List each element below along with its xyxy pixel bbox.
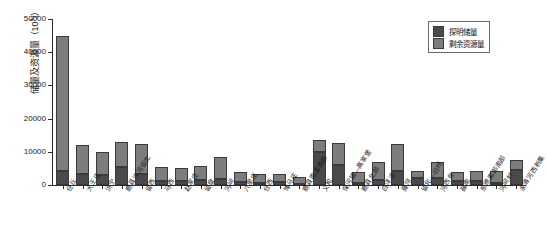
y-axis-tick-label: 20000 [24,114,46,123]
y-axis-tick-label: 10000 [24,147,46,156]
legend-label-remaining: 剩余资源量 [449,38,484,49]
y-axis-tick-mark [48,152,52,153]
y-axis-tick-label: 50000 [24,14,46,23]
bar-segment-remaining [214,157,227,179]
bar-segment-remaining [56,36,69,171]
bar-segment-remaining [115,142,128,168]
y-axis-tick-label: 40000 [24,47,46,56]
y-axis-tick-mark [48,85,52,86]
legend-swatch-proven-icon [433,26,444,37]
bar-segment-remaining [96,152,109,175]
bar-segment-remaining [76,145,89,174]
y-axis-tick-label: 0 [42,180,46,189]
bar-segment-remaining [411,171,424,178]
legend-label-proven: 探明储量 [449,26,477,37]
bar-segment-remaining [313,140,326,153]
legend-item-proven: 探明储量 [433,25,484,37]
bar-segment-remaining [510,160,523,169]
legend-swatch-remaining-icon [433,38,444,49]
x-axis-labels: 任丘大王庄洪宁鹿县沙河街北留西马西赵家庄留盘河间八里庄任西博马庄鹿县南孟南部义和… [52,188,533,252]
bar-stack[interactable] [56,36,69,185]
y-axis-tick-mark [48,185,52,186]
y-axis-tick-mark [48,19,52,20]
chart-legend: 探明储量 剩余资源量 [428,21,490,53]
y-axis-tick-mark [48,119,52,120]
bar-segment-remaining [332,143,345,165]
y-axis-tick-label: 30000 [24,80,46,89]
bar-segment-remaining [391,144,404,172]
legend-item-remaining: 剩余资源量 [433,37,484,49]
y-axis-tick-mark [48,52,52,53]
